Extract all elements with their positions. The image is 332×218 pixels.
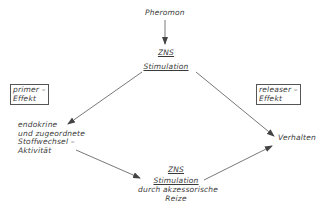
releaser-line2: Effekt — [259, 95, 298, 104]
arrow-zns-to-endokrine — [68, 72, 142, 124]
zns-top-stimulation: Stimulation — [140, 63, 192, 72]
zns-top-label: ZNS — [140, 49, 192, 58]
node-zns-top: ZNS Stimulation — [140, 49, 192, 71]
node-endokrine-aktivitaet: endokrine und zugeordnete Stoffwechsel –… — [18, 121, 85, 155]
arrow-zns-bottom-to-verhalten — [204, 146, 272, 180]
zns-bottom-label: ZNS — [138, 166, 214, 175]
node-zns-bottom: ZNS Stimulation durch akzessorische Reiz… — [138, 166, 214, 203]
node-releaser-effekt: releaser – Effekt — [256, 84, 301, 105]
node-primer-effekt: primer – Effekt — [10, 84, 49, 105]
primer-line2: Effekt — [13, 95, 46, 104]
zns-bottom-line4: Reize — [138, 195, 214, 204]
node-verhalten: Verhalten — [278, 134, 316, 143]
node-pheromon: Pheromon — [145, 9, 185, 18]
endokrine-line4: Aktivität — [18, 147, 85, 156]
arrow-endokrine-to-zns-bottom — [76, 150, 140, 178]
zns-bottom-stimulation: Stimulation — [138, 177, 214, 186]
